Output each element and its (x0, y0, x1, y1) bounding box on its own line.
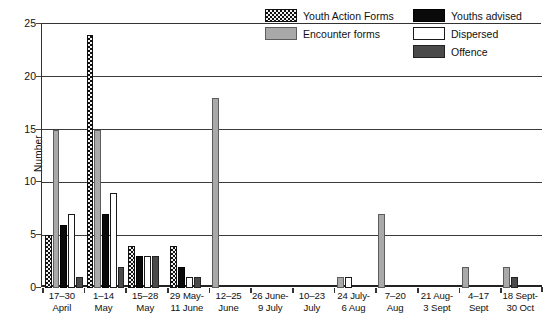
x-axis-label-line1: 26 June- (250, 290, 290, 302)
legend-swatch-dark-gray-icon (413, 45, 445, 58)
bar-offence-4 (194, 277, 201, 288)
x-axis-label-line2: 6 Aug (334, 302, 374, 314)
bar-group-3 (125, 24, 167, 288)
bar-offence-2 (118, 267, 125, 288)
bar-dispersed-8 (345, 277, 352, 288)
x-axis-label-10: 21 Aug-3 Sept (416, 290, 458, 322)
legend-column-1: Youth Action Forms Encounter forms (265, 8, 413, 64)
x-axis-label-line2: July (292, 302, 332, 314)
bar-youth-action-forms-1 (45, 235, 52, 288)
x-axis-label-line2: May (84, 302, 124, 314)
bar-youths-advised-2 (102, 214, 109, 288)
x-axis-label-11: 4–17Sept (458, 290, 500, 322)
y-tick-label-15: 15 (8, 124, 36, 134)
x-axis-label-line1: 10–23 (292, 290, 332, 302)
x-axis-label-line2: Aug (375, 302, 415, 314)
bar-set (84, 24, 126, 288)
y-tick-label-25: 25 (8, 18, 36, 28)
x-axis-label-4: 29 May-11 June (166, 290, 208, 322)
x-axis-label-line2: June (209, 302, 249, 314)
bar-offence-1 (76, 277, 83, 288)
x-axis-label-line1: 12–25 (209, 290, 249, 302)
x-axis-label-line2: 30 Oct (500, 302, 540, 314)
legend-swatch-checkered-icon (265, 9, 297, 22)
legend: Youth Action Forms Encounter forms Youth… (265, 8, 543, 64)
x-axis-label-line1: 15–28 (125, 290, 165, 302)
legend-label-encounter-forms: Encounter forms (303, 28, 380, 40)
x-axis-label-8: 24 July-6 Aug (333, 290, 375, 322)
bar-group-4 (167, 24, 209, 288)
legend-swatch-black-icon (413, 9, 445, 22)
x-axis-label-2: 1–14May (83, 290, 125, 322)
legend-item-offence: Offence (413, 44, 543, 59)
y-tick-label-5: 5 (8, 229, 36, 239)
x-axis-label-12: 18 Sept-30 Oct (499, 290, 541, 322)
bar-youth-action-forms-3 (128, 246, 135, 288)
legend-column-2: Youths advised Dispersed Offence (413, 8, 543, 64)
bar-encounter-forms-11 (462, 267, 469, 288)
x-axis-label-line1: 4–17 (459, 290, 499, 302)
x-axis-label-line2: May (125, 302, 165, 314)
bar-encounter-forms-5 (212, 98, 219, 288)
x-axis-labels: 17–30April1–14May15–28May29 May-11 June1… (41, 290, 541, 322)
legend-item-encounter-forms: Encounter forms (265, 26, 413, 41)
bar-youths-advised-3 (136, 256, 143, 288)
bar-youth-action-forms-4 (170, 246, 177, 288)
bar-dispersed-3 (144, 256, 151, 288)
bar-dispersed-4 (186, 277, 193, 288)
bar-group-2 (84, 24, 126, 288)
x-axis-label-9: 7–20Aug (374, 290, 416, 322)
x-axis-label-line2: 11 June (167, 302, 207, 314)
legend-label-youths-advised: Youths advised (451, 10, 522, 22)
legend-label-dispersed: Dispersed (451, 28, 498, 40)
x-axis-label-line2: April (42, 302, 82, 314)
bar-set (167, 24, 209, 288)
bar-encounter-forms-2 (94, 130, 101, 288)
bar-encounter-forms-12 (503, 267, 510, 288)
y-axis: 25 20 15 10 5 0 (0, 0, 36, 322)
bar-youths-advised-4 (178, 267, 185, 288)
legend-label-youth-action-forms: Youth Action Forms (303, 10, 394, 22)
bar-set (209, 24, 251, 288)
bar-offence-3 (152, 256, 159, 288)
legend-swatch-light-gray-icon (265, 27, 297, 40)
x-axis-label-6: 26 June-9 July (249, 290, 291, 322)
bar-dispersed-2 (110, 193, 117, 288)
bar-youth-action-forms-2 (87, 35, 94, 288)
x-axis-label-line1: 1–14 (84, 290, 124, 302)
x-axis-label-7: 10–23July (291, 290, 333, 322)
bar-group-5 (209, 24, 251, 288)
x-axis-label-line2: 3 Sept (417, 302, 457, 314)
bar-offence-12 (511, 277, 518, 288)
x-axis-label-1: 17–30April (41, 290, 83, 322)
y-tick-label-20: 20 (8, 71, 36, 81)
x-axis-label-line1: 7–20 (375, 290, 415, 302)
bar-set (42, 24, 84, 288)
x-axis-label-line1: 18 Sept- (500, 290, 540, 302)
x-axis-label-line2: Sept (459, 302, 499, 314)
y-tick-label-10: 10 (8, 176, 36, 186)
x-axis-label-line1: 21 Aug- (417, 290, 457, 302)
y-tickmark-0 (36, 287, 41, 288)
bar-encounter-forms-8 (337, 277, 344, 288)
x-axis-label-line1: 17–30 (42, 290, 82, 302)
x-axis-label-line2: 9 July (250, 302, 290, 314)
bar-encounter-forms-1 (53, 130, 60, 288)
x-tickmark-end (541, 287, 543, 292)
legend-item-youths-advised: Youths advised (413, 8, 543, 23)
x-axis-label-5: 12–25June (208, 290, 250, 322)
x-axis-label-line1: 24 July- (334, 290, 374, 302)
bar-chart: Number 25 20 15 10 5 0 17–30April1–14May… (0, 0, 549, 322)
legend-label-offence: Offence (451, 46, 488, 58)
bar-group-1 (42, 24, 84, 288)
y-tick-label-0: 0 (8, 282, 36, 292)
legend-item-youth-action-forms: Youth Action Forms (265, 8, 413, 23)
bar-encounter-forms-9 (378, 214, 385, 288)
bar-set (125, 24, 167, 288)
x-axis-label-line1: 29 May- (167, 290, 207, 302)
legend-item-dispersed: Dispersed (413, 26, 543, 41)
legend-swatch-white-icon (413, 27, 445, 40)
x-axis-label-3: 15–28May (124, 290, 166, 322)
bar-youths-advised-1 (60, 225, 67, 288)
bar-dispersed-1 (68, 214, 75, 288)
